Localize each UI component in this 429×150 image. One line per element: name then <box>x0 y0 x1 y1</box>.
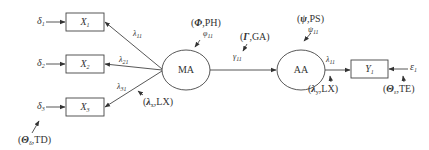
lambda-11-label: λ11 <box>133 30 142 39</box>
delta-2-label: δ2 <box>37 58 45 69</box>
epsilon-1-label: ε1 <box>410 62 417 73</box>
phi-11-label: φ11 <box>203 30 213 39</box>
ma-label: MA <box>162 65 210 75</box>
y1-label: Y1 <box>351 64 388 75</box>
psi-11-label: ψ11 <box>308 26 319 35</box>
delta-1-label: δ1 <box>37 16 45 27</box>
aa-label: AA <box>277 65 325 75</box>
psi-matrix-label: (ψ,PS) <box>297 14 324 24</box>
lambda-x-matrix-label: (λx,LX) <box>143 97 173 108</box>
lambda-21-label: λ21 <box>119 56 128 65</box>
x3-label: X3 <box>66 102 104 113</box>
lambda-y11-label: λ11 <box>326 56 335 65</box>
delta-3-label: δ3 <box>37 101 45 112</box>
x1-label: X1 <box>66 17 104 28</box>
gamma-matrix-label: (Γ,GA) <box>240 32 270 42</box>
phi-matrix-label: (Φ,PH) <box>191 18 221 28</box>
x2-label: X2 <box>66 59 104 70</box>
theta-eps-matrix-label: (Θε,TE) <box>383 84 415 95</box>
gamma-11-label: γ11 <box>233 53 242 62</box>
lambda-31-label: λ31 <box>117 83 126 92</box>
theta-delta-matrix-label: (Θδ,TD) <box>18 135 51 146</box>
lambda-y-matrix-label: (λy,LX) <box>308 84 338 95</box>
